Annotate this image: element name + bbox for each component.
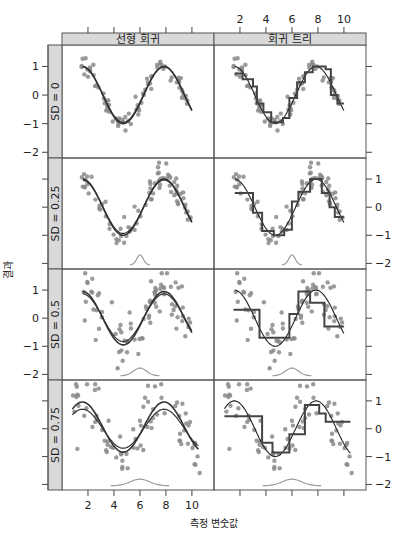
data-point — [93, 388, 97, 392]
data-point — [237, 382, 241, 386]
data-point — [256, 448, 260, 452]
svg-text:1: 1 — [32, 60, 39, 73]
data-point — [83, 271, 87, 275]
data-point — [138, 419, 142, 423]
data-point — [187, 316, 191, 320]
data-point — [236, 300, 240, 304]
column-strip-2: 회귀 트리 — [214, 33, 366, 46]
column-strip-1: 선형 회귀 — [62, 33, 214, 46]
data-point — [175, 315, 179, 319]
data-point — [105, 443, 109, 447]
data-point — [164, 161, 168, 165]
data-point — [82, 172, 86, 176]
data-point — [119, 330, 123, 334]
data-point — [325, 304, 329, 308]
data-point — [141, 405, 145, 409]
data-point — [338, 423, 342, 427]
data-point — [186, 442, 190, 446]
data-point — [309, 161, 313, 165]
data-point — [82, 185, 86, 189]
data-point — [118, 323, 122, 327]
data-point — [278, 466, 282, 470]
data-point — [284, 204, 288, 208]
data-point — [338, 442, 342, 446]
data-point — [107, 227, 111, 231]
data-point — [279, 111, 283, 115]
data-point — [318, 173, 322, 177]
svg-text:4: 4 — [262, 13, 269, 26]
data-point — [321, 285, 325, 289]
data-point — [320, 78, 324, 82]
tree-step-fit — [234, 292, 344, 338]
data-point — [308, 165, 312, 169]
data-point — [274, 241, 278, 245]
data-point — [157, 161, 161, 165]
data-point — [325, 280, 329, 284]
data-point — [184, 411, 188, 415]
data-point — [139, 423, 143, 427]
data-point — [290, 419, 294, 423]
data-point — [123, 115, 127, 119]
data-point — [186, 423, 190, 427]
data-point — [90, 290, 94, 294]
svg-text:10: 10 — [337, 13, 351, 26]
data-point — [111, 119, 115, 123]
data-point — [345, 463, 349, 467]
data-point — [118, 227, 122, 231]
data-point — [165, 271, 169, 275]
data-point — [90, 425, 94, 429]
data-point — [75, 447, 79, 451]
data-point — [143, 396, 147, 400]
data-point — [270, 434, 274, 438]
data-point — [301, 197, 305, 201]
data-point — [246, 338, 250, 342]
data-point — [123, 128, 127, 132]
data-point — [178, 432, 182, 436]
data-point — [279, 310, 283, 314]
data-point — [317, 271, 321, 275]
data-point — [327, 400, 331, 404]
data-point — [347, 454, 351, 458]
svg-text:−1: −1 — [375, 451, 391, 464]
data-point — [193, 463, 197, 467]
data-point — [136, 352, 140, 356]
svg-text:0: 0 — [32, 312, 39, 325]
data-point — [242, 290, 246, 294]
svg-text:−1: −1 — [375, 229, 391, 242]
data-point — [129, 321, 133, 325]
data-point — [97, 206, 101, 210]
svg-text:2: 2 — [84, 499, 91, 512]
data-point — [268, 124, 272, 128]
panel-r3-c2 — [214, 269, 366, 380]
data-point — [166, 173, 170, 177]
data-point — [129, 326, 133, 330]
data-point — [224, 409, 228, 413]
svg-text:SD = 0.5: SD = 0.5 — [49, 300, 62, 349]
data-point — [291, 423, 295, 427]
data-point — [228, 404, 232, 408]
data-point — [281, 321, 285, 325]
data-point — [308, 171, 312, 175]
data-point — [227, 447, 231, 451]
svg-text:SD = 0.25: SD = 0.25 — [49, 185, 62, 241]
error-density-curve — [130, 255, 150, 265]
panels-group — [62, 45, 366, 490]
data-point — [245, 197, 249, 201]
data-point — [310, 309, 314, 313]
data-point — [146, 384, 150, 388]
svg-text:−1: −1 — [23, 340, 39, 353]
svg-text:8: 8 — [314, 13, 321, 26]
data-point — [181, 196, 185, 200]
data-point — [305, 301, 309, 305]
data-point — [263, 232, 267, 236]
data-point — [120, 465, 124, 469]
data-point — [145, 77, 149, 81]
data-point — [265, 332, 269, 336]
data-point — [272, 459, 276, 463]
svg-text:−2: −2 — [375, 257, 391, 270]
data-point — [110, 300, 114, 304]
data-point — [235, 318, 239, 322]
data-point — [245, 388, 249, 392]
data-point — [301, 87, 305, 91]
data-point — [298, 384, 302, 388]
